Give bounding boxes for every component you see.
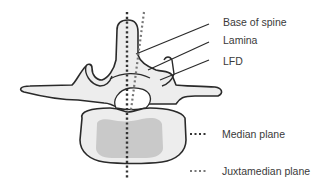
label-lamina: Lamina <box>223 35 257 46</box>
vertebra-diagram <box>0 0 328 190</box>
leader-line-lfd <box>160 60 209 80</box>
vertebral-body-core <box>96 118 163 158</box>
label-lfd: LFD <box>223 56 243 67</box>
legend-median-label: Median plane <box>222 129 285 140</box>
label-base-of-spine: Base of spine <box>223 17 287 28</box>
leader-line-base-of-spine <box>136 24 209 54</box>
legend-juxtamedian-label: Juxtamedian plane <box>222 166 310 177</box>
leader-line-lamina <box>148 42 209 70</box>
